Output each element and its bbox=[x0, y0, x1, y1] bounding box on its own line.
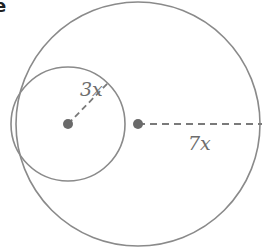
outer-center-dot bbox=[133, 119, 143, 129]
inner-center-dot bbox=[63, 119, 73, 129]
cropped-text-fragment: e bbox=[0, 0, 6, 16]
concentric-circles-diagram: e 3x 7x bbox=[0, 0, 266, 249]
outer-radius-label: 7x bbox=[188, 132, 211, 154]
inner-radius-label: 3x bbox=[80, 78, 103, 100]
